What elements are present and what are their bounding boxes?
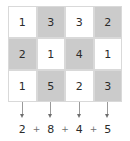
grid-cell-value: 1 <box>47 49 54 60</box>
grid-cell-value: 2 <box>76 81 83 92</box>
grid-cell-r2c3: 4 <box>65 38 94 70</box>
column-sum-figure: 1 3 3 2 2 1 4 1 1 5 2 <box>0 0 130 141</box>
arrow-head-icon <box>48 114 52 118</box>
grid-cell-r3c1: 1 <box>8 70 37 102</box>
grid-cell-r2c1: 2 <box>8 38 37 70</box>
grid-cell-value: 4 <box>76 49 83 60</box>
sum-term-value: 2 <box>19 123 26 136</box>
arrow-head-icon <box>77 114 81 118</box>
grid-cell-r3c2: 5 <box>37 70 66 102</box>
column-arrows <box>8 102 122 120</box>
grid-cell-value: 5 <box>47 81 54 92</box>
grid-cell-r1c3: 3 <box>65 6 94 38</box>
grid-cell-value: 3 <box>104 81 111 92</box>
sum-term-value: 4 <box>76 123 83 136</box>
grid-cell-r2c2: 1 <box>37 38 66 70</box>
arrow-head-icon <box>20 114 24 118</box>
grid-cell-r2c4: 1 <box>94 38 123 70</box>
plus-operator: + <box>58 125 72 134</box>
grid-cell-r1c2: 3 <box>37 6 66 38</box>
down-arrow-column-3 <box>65 102 94 120</box>
grid-cell-value: 1 <box>19 81 26 92</box>
sum-term-value: 5 <box>104 123 111 136</box>
arrow-head-icon <box>105 114 109 118</box>
grid-cell-r1c4: 2 <box>94 6 123 38</box>
down-arrow-column-1 <box>8 102 37 120</box>
down-arrow-column-2 <box>37 102 66 120</box>
number-grid: 1 3 3 2 2 1 4 1 1 5 2 <box>8 6 122 102</box>
down-arrow-column-4 <box>94 102 123 120</box>
grid-cell-value: 3 <box>47 17 54 28</box>
grid-cell-value: 2 <box>19 49 26 60</box>
sum-term-4: + 5 <box>94 124 123 135</box>
grid-cell-value: 1 <box>104 49 111 60</box>
plus-operator: + <box>30 125 44 134</box>
grid-cell-r3c3: 2 <box>65 70 94 102</box>
grid-cell-r3c4: 3 <box>94 70 123 102</box>
grid-cell-r1c1: 1 <box>8 6 37 38</box>
sum-term-value: 8 <box>47 123 54 136</box>
grid-cell-value: 3 <box>76 17 83 28</box>
grid-cell-value: 1 <box>19 17 26 28</box>
column-sum-expression: 2 + 8 + 4 + 5 <box>8 122 122 136</box>
plus-operator: + <box>87 125 101 134</box>
grid-cell-value: 2 <box>104 17 111 28</box>
